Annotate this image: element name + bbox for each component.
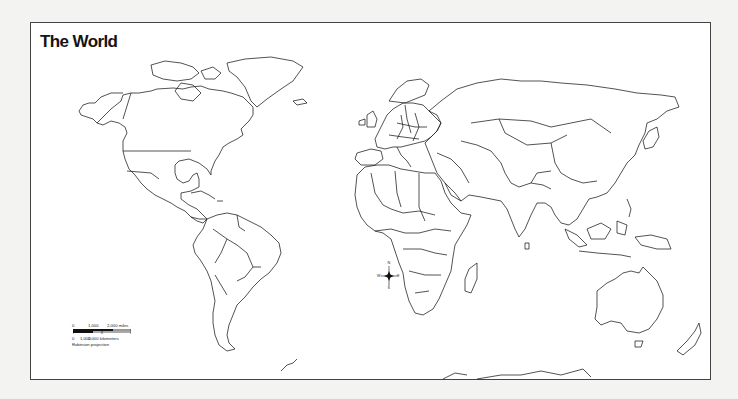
compass-rose: N S E W: [379, 261, 399, 291]
south-america-outline: [193, 213, 281, 351]
antarctica-outline: [281, 359, 591, 379]
compass-north-label: N: [388, 261, 391, 265]
compass-east-label: E: [397, 274, 400, 278]
scale-miles-1000: 1,000: [88, 323, 98, 328]
north-america-outline: [79, 57, 307, 223]
scale-bar-graphic: [73, 329, 131, 334]
projection-label: Robinson projection: [72, 342, 109, 347]
map-frame: The World: [30, 22, 711, 380]
asia-outline: [425, 79, 679, 257]
scale-km-2000: 2,000 kilometers: [88, 336, 119, 341]
africa-outline: [355, 165, 477, 315]
scale-km-0: 0: [72, 336, 74, 341]
compass-south-label: S: [388, 286, 391, 290]
compass-west-label: W: [377, 274, 381, 278]
scale-miles-2000: 2,000 miles: [107, 323, 128, 328]
scale-miles-0: 0: [72, 323, 74, 328]
oceania-outline: [595, 267, 701, 355]
europe-outline: [355, 79, 441, 167]
world-map-outline: [31, 23, 712, 381]
